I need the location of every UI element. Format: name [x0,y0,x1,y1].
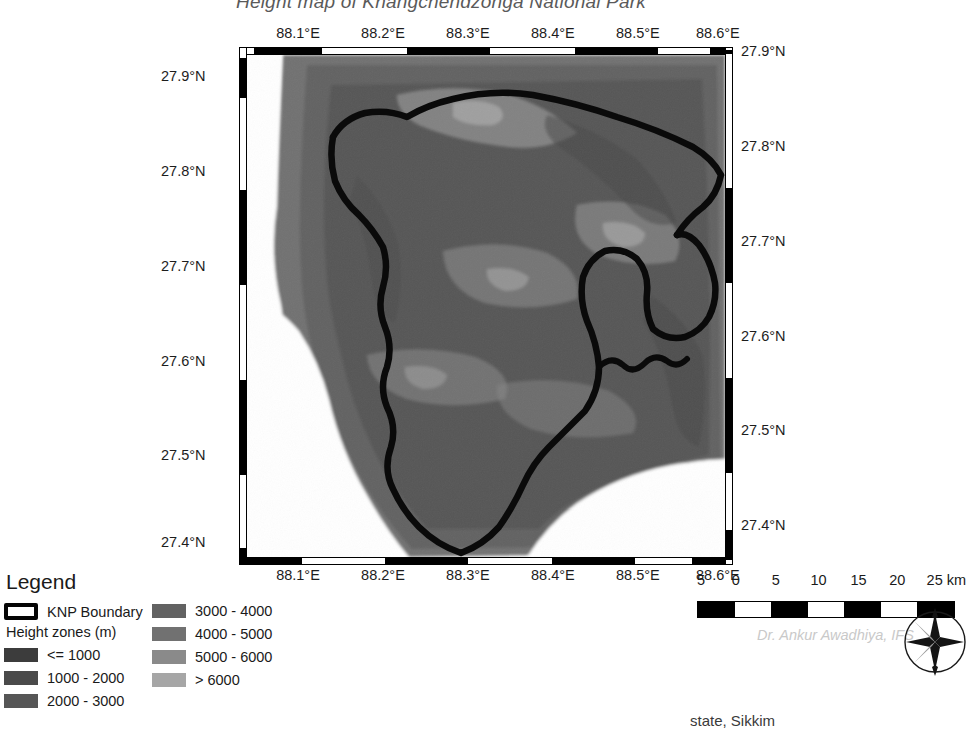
graticule-collar-right [725,47,733,565]
y-axis-tick-label: 27.9°N [161,68,206,84]
y-axis-tick-label: 27.4°N [161,534,206,550]
x-axis-tick-label: 88.2°E [361,25,405,41]
y-axis-tick-label: 27.5°N [741,422,786,438]
legend-item-label: KNP Boundary [47,604,143,620]
x-axis-tick-label: 88.2°E [361,567,405,583]
legend-item-label: 5000 - 6000 [195,649,272,665]
x-axis-tick-label: 88.1°E [276,567,320,583]
legend-heading: Legend [6,570,154,594]
x-axis-tick-label: 88.1°E [276,25,320,41]
scale-bar-tick-label: 5 [697,572,705,588]
zone-color-swatch [4,671,38,685]
legend-item-zone: <= 1000 [4,644,154,665]
knp-boundary-swatch [4,603,38,620]
scale-bar-segment [771,602,808,617]
zone-color-swatch [152,650,186,664]
footer-note: state, Sikkim [690,712,775,730]
legend-item-zone: 4000 - 5000 [152,623,302,644]
x-axis-tick-label: 88.4°E [531,25,575,41]
attribution-watermark: Dr. Ankur Awadhiya, IFS [757,627,914,643]
legend-item-label: 4000 - 5000 [195,626,272,642]
scale-bar-tick-label: 15 [851,572,867,588]
scale-bar-segment [735,602,772,617]
x-axis-tick-label: 88.5°E [616,25,660,41]
legend-item-boundary: KNP Boundary [4,601,154,622]
legend-item-zone: 3000 - 4000 [152,600,302,621]
x-axis-tick-label: 88.3°E [446,25,490,41]
scale-bar-segment [844,602,881,617]
scale-bar-tick-label: 5 [772,572,780,588]
scale-bar-tick-label: 0 [732,572,740,588]
zone-color-swatch [4,648,38,662]
y-axis-tick-label: 27.8°N [161,163,206,179]
x-axis-tick-label: 88.6°E [696,25,740,41]
legend-zones-heading: Height zones (m) [6,624,154,640]
legend-item-label: <= 1000 [47,647,100,663]
y-axis-tick-label: 27.6°N [161,353,206,369]
legend-item-zone: 5000 - 6000 [152,646,302,667]
y-axis-tick-label: 27.8°N [741,138,786,154]
x-axis-tick-label: 88.5°E [616,567,660,583]
compass-rose-icon [898,605,972,679]
graticule-collar-bottom [239,557,733,565]
terrain-svg [247,55,725,557]
y-axis-tick-label: 27.9°N [741,43,786,59]
y-axis-tick-label: 27.7°N [741,233,786,249]
map-raster[interactable] [247,55,725,557]
legend-item-label: 2000 - 3000 [47,693,124,709]
scale-bar-segment [808,602,845,617]
y-axis-tick-label: 27.4°N [741,517,786,533]
scale-bar-tick-label: 25 km [927,572,967,588]
x-axis-tick-label: 88.4°E [531,567,575,583]
map-figure [239,47,733,565]
scale-bar-tick-label: 20 [889,572,905,588]
scale-bar-segment [698,602,735,617]
legend-column-two: 3000 - 40004000 - 50005000 - 6000> 6000 [152,600,302,692]
legend-item-zone: 2000 - 3000 [4,690,154,711]
legend-item-label: 1000 - 2000 [47,670,124,686]
page-title: Height map of Khangchendzonga National P… [236,0,796,13]
graticule-collar-left [239,47,247,565]
zone-color-swatch [152,604,186,618]
zone-color-swatch [152,673,186,687]
legend-item-zone: 1000 - 2000 [4,667,154,688]
legend-item-label: 3000 - 4000 [195,603,272,619]
zone-color-swatch [152,627,186,641]
graticule-collar-top [239,47,733,55]
scale-bar-tick-label: 10 [811,572,827,588]
legend-item-zone: > 6000 [152,669,302,690]
zone-color-swatch [4,694,38,708]
legend-item-label: > 6000 [195,672,240,688]
x-axis-tick-label: 88.3°E [446,567,490,583]
scale-bar-labels: 50510152025 km [697,572,955,590]
y-axis-tick-label: 27.6°N [741,328,786,344]
y-axis-tick-label: 27.7°N [161,258,206,274]
legend: Legend KNP Boundary Height zones (m) <= … [4,570,154,713]
y-axis-tick-label: 27.5°N [161,447,206,463]
